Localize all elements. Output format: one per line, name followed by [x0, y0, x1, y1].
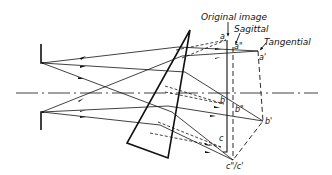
label-original-image: Original image [201, 12, 268, 22]
point-c-combined: c"/c' [226, 162, 243, 171]
optical-diagram: Original image Sagittal Tangential a a" … [0, 0, 332, 175]
point-a: a [220, 32, 225, 41]
rays-dashed [150, 40, 226, 147]
label-tangential: Tangential [264, 37, 311, 47]
point-a-prime: a' [259, 53, 266, 62]
label-sagittal: Sagittal [234, 24, 269, 34]
lower-stop [41, 112, 44, 130]
point-b-double-prime: b" [235, 105, 244, 114]
rays-lower [42, 51, 263, 160]
ray-arrows [78, 48, 221, 153]
point-b-prime: b' [265, 117, 272, 126]
upper-stop [41, 44, 44, 63]
point-c: c [219, 134, 224, 143]
point-a-double-prime: a" [234, 42, 243, 51]
rays-upper [42, 47, 263, 160]
point-b: b [220, 96, 225, 105]
